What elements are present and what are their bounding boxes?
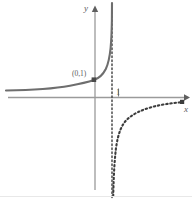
solid-branch-curve: [6, 3, 112, 91]
graph-figure: y x (0,1) 1: [0, 0, 192, 203]
y-axis-arrow-icon: [92, 6, 98, 13]
x-axis-arrow-icon: [184, 94, 190, 101]
dotted-branch-curve: [113, 102, 181, 196]
x-tick-label-1: 1: [116, 88, 120, 97]
y-axis-label: y: [83, 3, 88, 13]
point-label-0-1: (0,1): [72, 69, 87, 78]
graph-canvas: y x (0,1) 1: [0, 0, 192, 203]
point-marker-0-1: [92, 77, 97, 82]
x-axis-label: x: [183, 104, 188, 114]
